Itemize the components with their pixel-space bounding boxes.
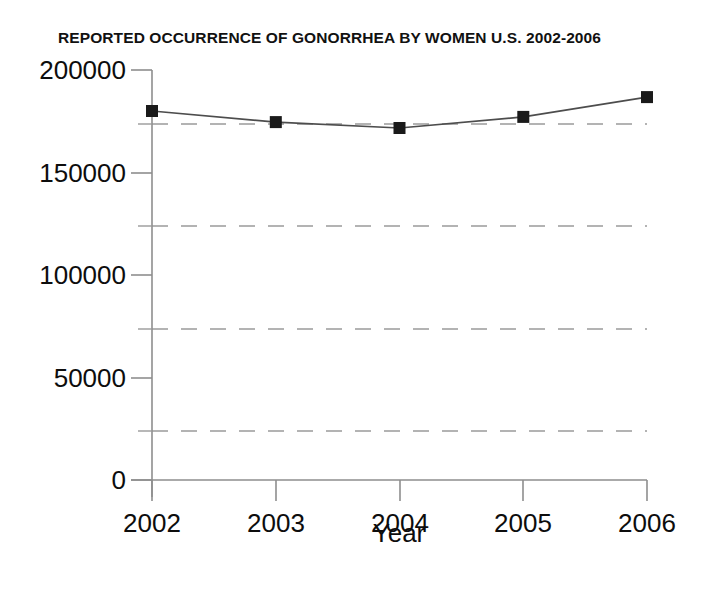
y-tick-label-150000: 150000 (0, 158, 126, 189)
y-axis-major-ticks (131, 70, 152, 480)
series-markers (146, 91, 653, 134)
y-axis-minor-ticks (138, 124, 152, 431)
y-tick-label-50000: 50000 (0, 363, 126, 394)
data-point-2006[interactable] (641, 91, 653, 103)
y-tick-label-0: 0 (0, 465, 126, 496)
x-tick-label-2003: 2003 (247, 508, 305, 539)
y-tick-label-200000: 200000 (0, 55, 126, 86)
x-tick-label-2002: 2002 (123, 508, 181, 539)
data-point-2003[interactable] (270, 116, 282, 128)
chart-container: REPORTED OCCURRENCE OF GONORRHEA BY WOME… (0, 0, 711, 592)
gridlines (152, 124, 647, 431)
x-tick-label-2006: 2006 (618, 508, 676, 539)
plot-area (0, 0, 711, 592)
x-axis-ticks (152, 480, 647, 501)
x-tick-label-2005: 2005 (494, 508, 552, 539)
data-point-2005[interactable] (517, 111, 529, 123)
data-point-2004[interactable] (394, 122, 406, 134)
x-axis-title: Year (373, 518, 426, 549)
y-tick-label-100000: 100000 (0, 260, 126, 291)
data-point-2002[interactable] (146, 105, 158, 117)
